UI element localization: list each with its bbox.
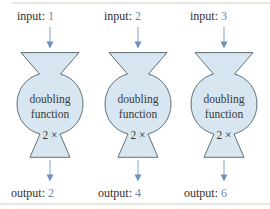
output-label-text: output: (184, 186, 218, 200)
function-machine-shape (102, 52, 174, 158)
output-value: 2 (45, 186, 54, 200)
output-value: 4 (132, 186, 141, 200)
input-label-text: input: (17, 9, 45, 23)
down-arrow-icon (133, 160, 143, 182)
function-machine-diagram: input:1 doublingfunction 2 × output:2 in… (0, 0, 270, 209)
down-arrow-icon (45, 160, 55, 182)
output-label: output:2 (0, 186, 54, 201)
input-label-text: input: (190, 9, 218, 23)
input-value: 3 (218, 9, 227, 23)
input-label-text: input: (104, 9, 132, 23)
input-value: 1 (45, 9, 54, 23)
output-value: 6 (218, 186, 227, 200)
output-label-text: output: (11, 186, 45, 200)
input-label: input:2 (71, 9, 141, 24)
output-label: output:6 (157, 186, 227, 201)
output-label: output:4 (71, 186, 141, 201)
input-label: input:1 (0, 9, 54, 24)
function-machine-shape (14, 52, 86, 158)
down-arrow-icon (45, 27, 55, 49)
down-arrow-icon (219, 27, 229, 49)
input-value: 2 (132, 9, 141, 23)
down-arrow-icon (133, 27, 143, 49)
bottom-rule-line (0, 203, 270, 205)
down-arrow-icon (219, 160, 229, 182)
function-machine-shape (188, 52, 260, 158)
top-rule-line (12, 2, 270, 4)
input-label: input:3 (157, 9, 227, 24)
output-label-text: output: (98, 186, 132, 200)
